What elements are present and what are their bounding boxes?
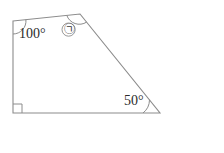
- angle-label-50: 50°: [124, 94, 144, 108]
- answer-blank-row: ( ) 도: [0, 126, 224, 153]
- unknown-angle-symbol: ㉠: [64, 24, 75, 35]
- right-angle-marker-bottom-left: [13, 104, 22, 113]
- figure-container: 100° 50° ㉠ ( ) 도: [0, 0, 224, 153]
- angle-label-100: 100°: [19, 27, 46, 41]
- angle-arc-bottom-right: [143, 100, 150, 113]
